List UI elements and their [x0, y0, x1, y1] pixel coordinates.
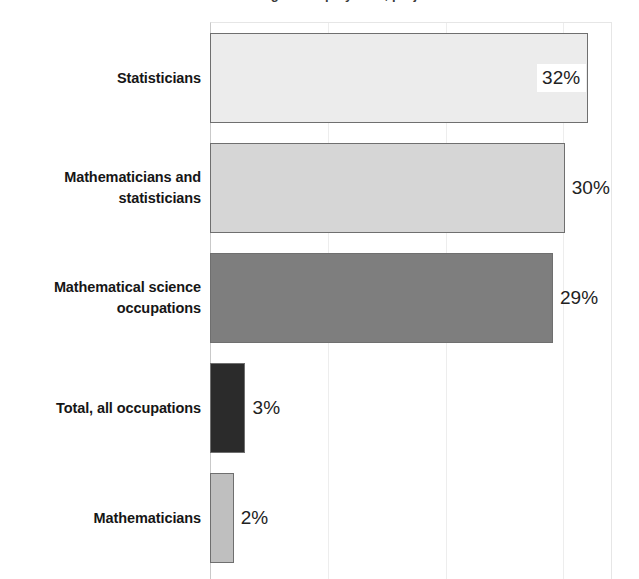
bar-value-label: 29% [553, 287, 598, 309]
bar-row: 2% [210, 473, 639, 563]
category-label-total-all-occupations: Total, all occupations [0, 363, 205, 453]
bar-row: 32% [210, 33, 639, 123]
bar-value-label: 32% [537, 64, 586, 92]
category-axis: Statisticians Mathematicians and statist… [0, 22, 205, 579]
category-label-mathematicians: Mathematicians [0, 473, 205, 563]
category-label-line: Mathematicians and [64, 167, 201, 188]
bar-row: 30% [210, 143, 639, 233]
category-label-line: Mathematical science [54, 277, 201, 298]
bar-value-label: 2% [234, 507, 269, 529]
category-label-line: statisticians [64, 188, 201, 209]
bars-layer: 32%30%29%3%2% [210, 22, 639, 579]
bar-chart: Percent change in employment, projected … [0, 0, 639, 579]
bar[interactable] [210, 143, 565, 233]
bar[interactable] [210, 473, 234, 563]
category-label-line: Mathematicians [94, 508, 201, 529]
category-label-mathematicians-and-statisticians: Mathematicians and statisticians [0, 143, 205, 233]
category-label-line: occupations [54, 298, 201, 319]
chart-title: Percent change in employment, projected [0, 0, 639, 2]
bar[interactable] [210, 253, 553, 343]
bar-value-label: 3% [245, 397, 280, 419]
bar[interactable] [210, 363, 245, 453]
category-label-line: Statisticians [117, 68, 201, 89]
category-label-line: Total, all occupations [56, 398, 201, 419]
category-label-mathematical-science-occupations: Mathematical science occupations [0, 253, 205, 343]
bar-row: 3% [210, 363, 639, 453]
bar-row: 29% [210, 253, 639, 343]
bar[interactable] [210, 33, 588, 123]
bar-value-label: 30% [565, 177, 610, 199]
category-label-statisticians: Statisticians [0, 33, 205, 123]
